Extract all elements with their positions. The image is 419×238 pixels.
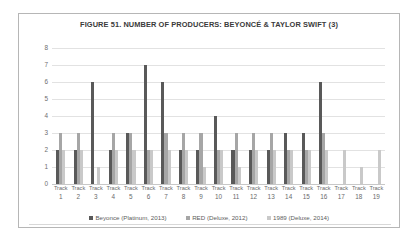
y-axis-tick-label: 8 xyxy=(44,45,48,51)
bar-group xyxy=(157,48,175,184)
x-axis-tick-number: 6 xyxy=(140,193,158,201)
y-axis-tick-label: 4 xyxy=(44,113,48,119)
bar-group xyxy=(210,48,228,184)
x-axis-tick-prefix: Track xyxy=(87,185,105,192)
x-axis-tick-number: 19 xyxy=(368,193,386,201)
bar-group xyxy=(87,48,105,184)
x-axis-tick-number: 1 xyxy=(52,193,70,201)
bar-group xyxy=(297,48,315,184)
x-axis-tick-number: 12 xyxy=(245,193,263,201)
x-axis-tick-number: 18 xyxy=(350,193,368,201)
x-axis-tick-prefix: Track xyxy=(262,185,280,192)
x-axis-tick-prefix: Track xyxy=(368,185,386,192)
x-axis-tick-number: 10 xyxy=(210,193,228,201)
legend-label: 1989 (Deluxe, 2014) xyxy=(273,214,329,221)
chart-title: FIGURE 51. NUMBER OF PRODUCERS: BEYONCÉ … xyxy=(19,20,399,29)
x-axis-labels: Track1Track2Track3Track4Track5Track6Trac… xyxy=(52,185,385,213)
bar-group xyxy=(140,48,158,184)
x-axis-tick: Track10 xyxy=(210,185,228,213)
x-axis-tick: Track16 xyxy=(315,185,333,213)
x-axis-tick: Track8 xyxy=(175,185,193,213)
x-axis-tick-number: 3 xyxy=(87,193,105,201)
x-axis-tick-prefix: Track xyxy=(122,185,140,192)
bar xyxy=(185,150,188,184)
x-axis-tick-number: 5 xyxy=(122,193,140,201)
bar-group xyxy=(350,48,368,184)
x-axis-tick: Track1 xyxy=(52,185,70,213)
x-axis-tick-prefix: Track xyxy=(157,185,175,192)
x-axis-tick: Track9 xyxy=(192,185,210,213)
y-axis-tick-label: 5 xyxy=(44,96,48,102)
bar-groups xyxy=(52,48,385,184)
bar xyxy=(220,150,223,184)
x-axis-tick-prefix: Track xyxy=(105,185,123,192)
y-axis-tick-label: 2 xyxy=(44,147,48,153)
bar xyxy=(132,150,135,184)
x-axis-tick: Track13 xyxy=(262,185,280,213)
bar xyxy=(273,150,276,184)
x-axis-tick-prefix: Track xyxy=(350,185,368,192)
bar-group xyxy=(262,48,280,184)
x-axis-tick: Track19 xyxy=(368,185,386,213)
bar xyxy=(97,167,100,184)
x-axis-tick-number: 9 xyxy=(192,193,210,201)
legend-item[interactable]: 1989 (Deluxe, 2014) xyxy=(267,214,330,221)
x-axis-tick: Track5 xyxy=(122,185,140,213)
x-axis-tick: Track6 xyxy=(140,185,158,213)
x-axis-tick: Track12 xyxy=(245,185,263,213)
x-axis-tick-number: 16 xyxy=(315,193,333,201)
bar-group xyxy=(315,48,333,184)
x-axis-tick-prefix: Track xyxy=(227,185,245,192)
legend-item[interactable]: RED (Deluxe, 2012) xyxy=(186,214,248,221)
legend-swatch-icon xyxy=(186,216,190,220)
x-axis-tick-number: 17 xyxy=(333,193,351,201)
bar-group xyxy=(280,48,298,184)
bar xyxy=(62,150,65,184)
legend-separator xyxy=(29,224,391,225)
x-axis-tick-number: 2 xyxy=(70,193,88,201)
bar-group xyxy=(122,48,140,184)
x-axis-tick-number: 15 xyxy=(297,193,315,201)
x-axis-tick-prefix: Track xyxy=(70,185,88,192)
x-axis-tick-prefix: Track xyxy=(245,185,263,192)
y-axis-tick-label: 3 xyxy=(44,130,48,136)
bar xyxy=(255,150,258,184)
bar xyxy=(80,150,83,184)
legend-item[interactable]: Beyonce (Platinum, 2013) xyxy=(89,214,167,221)
x-axis-tick-prefix: Track xyxy=(175,185,193,192)
x-axis-tick-prefix: Track xyxy=(333,185,351,192)
x-axis-tick-prefix: Track xyxy=(297,185,315,192)
y-axis-tick-label: 1 xyxy=(44,164,48,170)
x-axis-tick-number: 8 xyxy=(175,193,193,201)
bar-group xyxy=(192,48,210,184)
x-axis-tick: Track17 xyxy=(333,185,351,213)
x-axis-tick-prefix: Track xyxy=(52,185,70,192)
x-axis-tick: Track11 xyxy=(227,185,245,213)
bar xyxy=(290,150,293,184)
x-axis-tick-prefix: Track xyxy=(315,185,333,192)
bar xyxy=(115,150,118,184)
bar-group xyxy=(368,48,386,184)
bar xyxy=(238,167,241,184)
y-axis-tick-label: 0 xyxy=(44,181,48,187)
x-axis-tick: Track3 xyxy=(87,185,105,213)
bar-group xyxy=(105,48,123,184)
legend-label: RED (Deluxe, 2012) xyxy=(192,214,247,221)
bar xyxy=(343,150,346,184)
bar xyxy=(325,150,328,184)
legend-swatch-icon xyxy=(267,216,271,220)
legend-swatch-icon xyxy=(89,216,93,220)
bar xyxy=(203,167,206,184)
bar xyxy=(168,150,171,184)
bar-group xyxy=(333,48,351,184)
bar xyxy=(378,150,381,184)
x-axis-tick-number: 11 xyxy=(227,193,245,201)
bar-group xyxy=(245,48,263,184)
bar-group xyxy=(70,48,88,184)
chart-legend: Beyonce (Platinum, 2013)RED (Deluxe, 201… xyxy=(19,214,399,221)
bar xyxy=(360,167,363,184)
bar xyxy=(308,150,311,184)
x-axis-tick: Track7 xyxy=(157,185,175,213)
x-axis-tick-number: 14 xyxy=(280,193,298,201)
legend-label: Beyonce (Platinum, 2013) xyxy=(95,214,166,221)
